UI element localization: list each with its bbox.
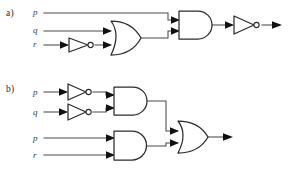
not-gate-bubble-b-p	[86, 89, 91, 94]
circuit-part-a	[44, 11, 282, 55]
arrowhead-a-not-out-in	[225, 21, 234, 29]
and-gate-body-b-top	[114, 87, 147, 115]
arrowhead-a-or-in1	[103, 27, 112, 35]
arrowhead-a-or-in2	[103, 41, 112, 49]
arrowhead-b-or-in1	[170, 127, 179, 135]
gate-a-or	[103, 21, 141, 55]
arrowhead-b-not-q-in	[59, 108, 68, 116]
arrowhead-a-not-r-in	[60, 41, 69, 49]
gate-b-and-top	[106, 87, 147, 115]
and-gate-body-a	[179, 11, 212, 39]
logic-circuit-figure: a) b) p q r p q p r	[0, 0, 293, 170]
not-gate-bubble-b-q	[86, 109, 91, 114]
arrowhead-b-output	[223, 133, 233, 141]
not-gate-triangle-a-r	[69, 38, 88, 52]
not-gate-triangle-b-q	[68, 104, 86, 120]
circuit-part-b	[44, 84, 233, 160]
and-gate-body-b-bottom	[114, 131, 147, 160]
not-gate-bubble-a-out	[254, 22, 259, 27]
not-gate-triangle-b-p	[68, 84, 86, 100]
gate-b-not-q	[59, 104, 91, 120]
gate-b-not-p	[59, 84, 91, 100]
or-gate-body-a	[111, 21, 141, 55]
gate-a-and	[171, 11, 212, 39]
or-gate-body-b	[178, 121, 208, 153]
arrowhead-b-not-p-in	[59, 88, 68, 96]
wire-a-p	[44, 13, 178, 20]
wire-b-and-top-to-or	[147, 101, 177, 131]
gate-b-or	[170, 121, 208, 153]
gate-a-not-r	[60, 38, 93, 52]
gate-a-not-out	[225, 16, 259, 34]
not-gate-bubble-a-r	[88, 42, 93, 47]
circuit-svg	[0, 0, 293, 170]
gate-b-and-bottom	[106, 131, 147, 160]
not-gate-triangle-a-out	[234, 16, 254, 34]
arrowhead-b-or-in2	[170, 139, 179, 147]
arrowhead-a-output	[272, 21, 282, 29]
